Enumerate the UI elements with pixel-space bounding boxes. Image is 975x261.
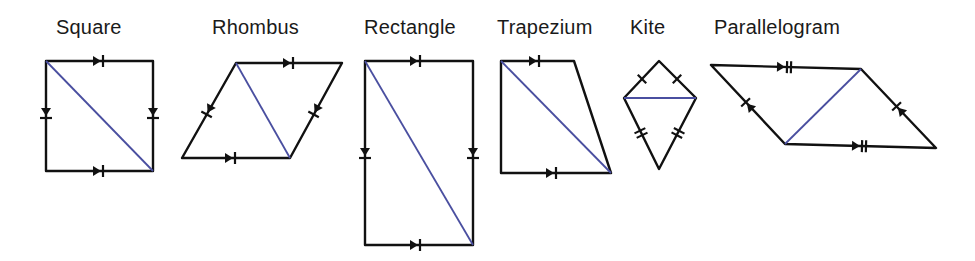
rectangle-diagonal xyxy=(365,61,473,245)
square-diagonal xyxy=(46,61,153,171)
trapezium-diagonal xyxy=(501,61,611,173)
shapes-canvas xyxy=(0,0,975,261)
parallelogram-diagonal xyxy=(785,69,861,144)
rhombus-shape xyxy=(182,57,342,164)
trapezium-shape xyxy=(501,55,611,179)
square-shape xyxy=(40,55,159,177)
kite-shape xyxy=(624,61,696,169)
rectangle-shape xyxy=(359,55,479,251)
rhombus-diagonal xyxy=(236,63,290,158)
parallelogram-shape xyxy=(711,61,936,152)
